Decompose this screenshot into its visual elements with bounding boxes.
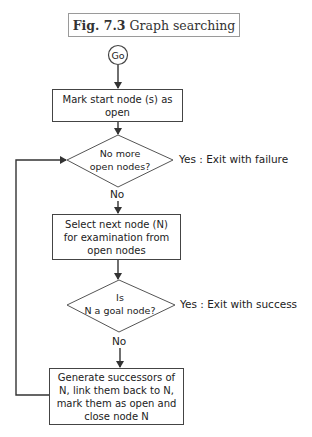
decision1-no-label: No xyxy=(110,188,124,200)
step-line: Generate successors of xyxy=(57,371,177,384)
step-line: mark them as open and xyxy=(57,397,177,410)
step-line: Mark start node (s) as xyxy=(63,93,173,106)
step-line: open xyxy=(63,106,173,119)
decision1-text: No more open nodes? xyxy=(80,147,160,173)
decision1-yes-label: Yes : Exit with failure xyxy=(179,153,288,165)
step-select-next: Select next node (N) for examination fro… xyxy=(52,214,181,260)
decision2-no-label: No xyxy=(112,335,126,347)
step-line: close node N xyxy=(57,410,177,423)
decision-line: Is xyxy=(79,291,161,304)
loop-back-connector xyxy=(16,160,66,395)
step-line: N, link them back to N, xyxy=(57,384,177,397)
figure-caption: Fig. 7.3 Graph searching xyxy=(68,13,240,37)
decision-line: open nodes? xyxy=(80,160,160,173)
figure-title: Graph searching xyxy=(130,18,236,33)
step-line: for examination from xyxy=(64,231,170,244)
step-mark-start: Mark start node (s) as open xyxy=(52,89,183,122)
start-node-label: Go xyxy=(106,49,130,62)
decision2-yes-label: Yes : Exit with success xyxy=(180,298,297,310)
decision-line: No more xyxy=(80,147,160,160)
decision-line: N a goal node? xyxy=(79,304,161,317)
step-line: open nodes xyxy=(64,244,170,257)
decision2-text: Is N a goal node? xyxy=(79,291,161,317)
step-line: Select next node (N) xyxy=(64,218,170,231)
figure-label: Fig. 7.3 xyxy=(73,18,126,33)
step-generate-successors: Generate successors of N, link them back… xyxy=(49,368,184,425)
